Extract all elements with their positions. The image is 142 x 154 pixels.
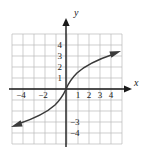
x-axis-label: x	[133, 77, 139, 88]
xtick-label: 3	[98, 90, 103, 100]
graph-figure: −4 −2 1 2 3 4 4 3 2 1 −3 −4 y x	[0, 0, 142, 154]
x-axis	[9, 85, 132, 92]
ytick-label: 4	[58, 40, 63, 50]
ytick-label: 3	[58, 51, 63, 61]
ytick-label: −4	[70, 128, 80, 138]
y-axis-label: y	[73, 7, 79, 18]
xtick-label: −4	[16, 90, 26, 100]
coordinate-plane-svg: −4 −2 1 2 3 4 4 3 2 1 −3 −4 y x	[0, 0, 142, 154]
xtick-label: 4	[109, 90, 114, 100]
ytick-label: 2	[58, 62, 63, 72]
xtick-label: −2	[38, 90, 48, 100]
ytick-label: 1	[58, 73, 63, 83]
ytick-label: −3	[70, 117, 80, 127]
xtick-label: 1	[76, 90, 81, 100]
xtick-label: 2	[87, 90, 92, 100]
